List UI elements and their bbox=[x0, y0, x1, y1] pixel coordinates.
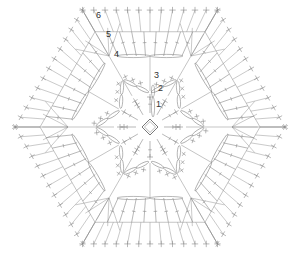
round-label-3: 3 bbox=[154, 70, 159, 80]
round-label-4: 4 bbox=[114, 49, 119, 59]
round-label-6: 6 bbox=[96, 10, 101, 20]
stitch-lines bbox=[12, 7, 288, 247]
round-label-1: 1 bbox=[156, 99, 161, 109]
round-label-5: 5 bbox=[106, 29, 111, 39]
round-labels: 123456 bbox=[96, 10, 163, 109]
round-label-2: 2 bbox=[158, 83, 163, 93]
crochet-chart: 123456 bbox=[0, 0, 297, 254]
